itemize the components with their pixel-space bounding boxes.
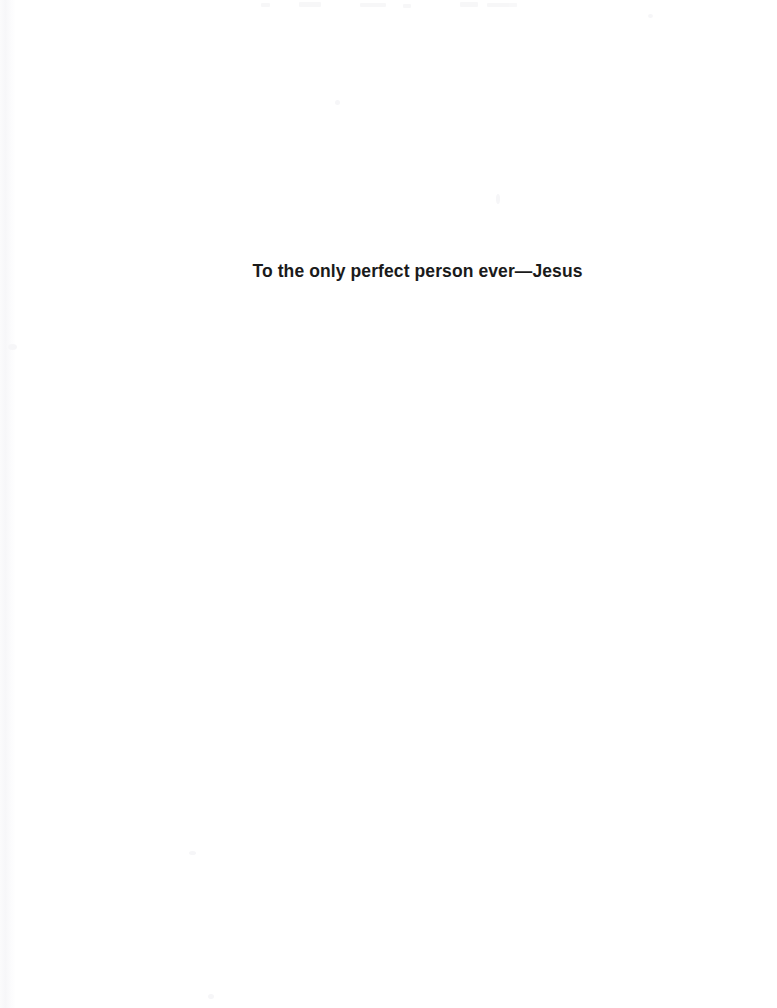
scan-fleck <box>496 194 500 204</box>
scan-fleck <box>648 14 653 18</box>
scan-fleck <box>335 100 340 105</box>
dedication-text: To the only perfect person ever—Jesus <box>0 259 777 283</box>
scan-fleck <box>189 851 196 855</box>
scan-fleck <box>208 994 214 999</box>
scan-gutter-shadow <box>0 0 16 1008</box>
dedication-page: To the only perfect person ever—Jesus <box>0 0 777 1008</box>
scan-artifact-specks <box>255 0 525 12</box>
scan-fleck <box>8 344 17 350</box>
